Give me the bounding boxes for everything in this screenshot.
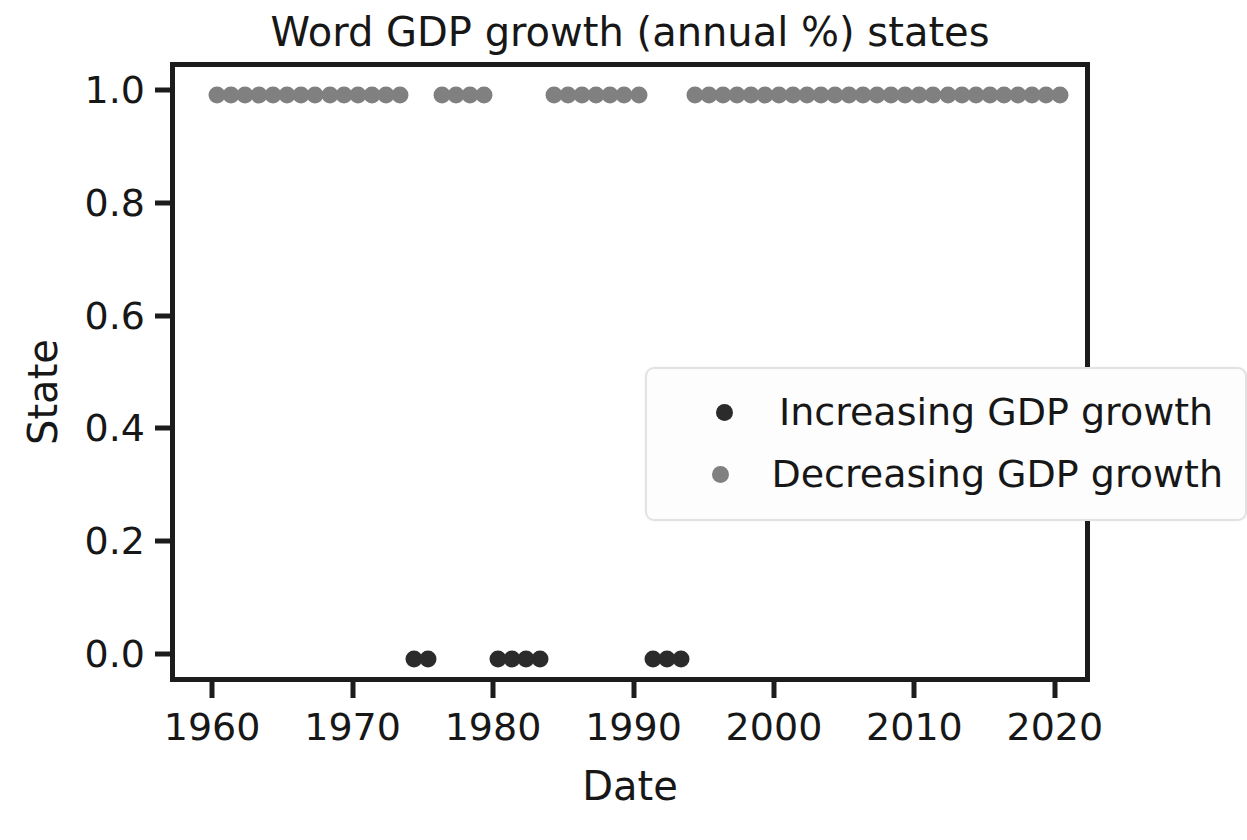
x-tick-mark [1052, 682, 1057, 698]
legend-item-decreasing: Decreasing GDP growth [669, 443, 1223, 505]
y-tick-label: 1.0 [35, 71, 145, 109]
scatter-point [630, 87, 647, 104]
legend-label-decreasing: Decreasing GDP growth [771, 453, 1223, 495]
y-tick-label: 0.6 [35, 297, 145, 335]
y-tick-label: 0.2 [35, 522, 145, 560]
x-tick-label: 1990 [554, 705, 714, 749]
x-tick-mark [912, 682, 917, 698]
scatter-point [391, 87, 408, 104]
y-tick-mark [155, 88, 170, 93]
legend-item-increasing: Increasing GDP growth [669, 381, 1223, 443]
legend-swatch-increasing-wrap [669, 404, 779, 421]
legend-dot-icon-decreasing [712, 466, 729, 483]
x-tick-label: 1980 [413, 705, 573, 749]
scatter-point [1051, 87, 1068, 104]
x-tick-mark [350, 682, 355, 698]
y-tick-label: 0.8 [35, 184, 145, 222]
y-tick-label: 0.0 [35, 635, 145, 673]
x-tick-label: 2000 [694, 705, 854, 749]
scatter-point [672, 650, 689, 667]
y-tick-mark [155, 426, 170, 431]
x-tick-mark [771, 682, 776, 698]
x-tick-mark [631, 682, 636, 698]
legend-label-increasing: Increasing GDP growth [779, 391, 1213, 433]
y-tick-mark [155, 200, 170, 205]
scatter-point [419, 650, 436, 667]
x-axis-label: Date [170, 762, 1090, 810]
scatter-point [476, 87, 493, 104]
chart-legend: Increasing GDP growth Decreasing GDP gro… [645, 367, 1247, 521]
x-tick-mark [491, 682, 496, 698]
x-tick-label: 1960 [132, 705, 292, 749]
x-tick-label: 2010 [834, 705, 994, 749]
x-tick-label: 2020 [975, 705, 1135, 749]
y-tick-mark [155, 313, 170, 318]
legend-swatch-decreasing-wrap [669, 466, 771, 483]
x-tick-label: 1970 [273, 705, 433, 749]
y-tick-label: 0.4 [35, 409, 145, 447]
y-tick-mark [155, 539, 170, 544]
x-tick-mark [210, 682, 215, 698]
plot-area: Increasing GDP growth Decreasing GDP gro… [170, 62, 1090, 682]
y-tick-mark [155, 651, 170, 656]
legend-dot-icon-increasing [716, 404, 733, 421]
scatter-point [532, 650, 549, 667]
chart-title: Word GDP growth (annual %) states [170, 8, 1090, 56]
